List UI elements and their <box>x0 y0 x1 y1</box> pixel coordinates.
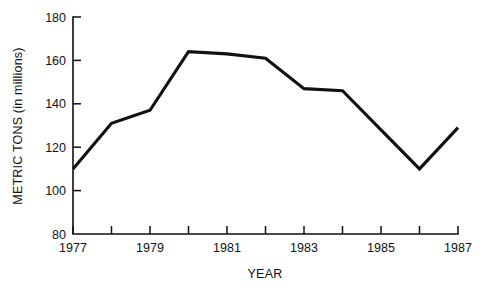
x-tick-label: 1977 <box>59 241 87 255</box>
y-axis-tick-labels: 80100120140160180 <box>45 11 66 242</box>
y-tick-label: 100 <box>45 184 66 198</box>
chart-svg: 80100120140160180 1977197919811983198519… <box>0 0 482 294</box>
x-axis-tick-marks <box>73 226 458 234</box>
x-tick-label: 1979 <box>136 241 164 255</box>
x-tick-label: 1985 <box>367 241 395 255</box>
line-chart-figure: 80100120140160180 1977197919811983198519… <box>0 0 482 294</box>
x-axis-tick-labels: 197719791981198319851987 <box>59 241 472 255</box>
y-tick-label: 120 <box>45 141 66 155</box>
y-tick-label: 80 <box>52 228 66 242</box>
x-tick-label: 1987 <box>444 241 472 255</box>
x-axis-title: YEAR <box>248 267 283 281</box>
axis-lines <box>73 17 458 234</box>
x-tick-label: 1983 <box>290 241 318 255</box>
y-axis-title: METRIC TONS (in millions) <box>11 47 25 204</box>
x-tick-label: 1981 <box>213 241 241 255</box>
y-tick-label: 180 <box>45 11 66 25</box>
data-series-line <box>73 52 458 169</box>
y-tick-label: 160 <box>45 54 66 68</box>
chart-page: 80100120140160180 1977197919811983198519… <box>0 0 482 294</box>
y-tick-label: 140 <box>45 97 66 111</box>
